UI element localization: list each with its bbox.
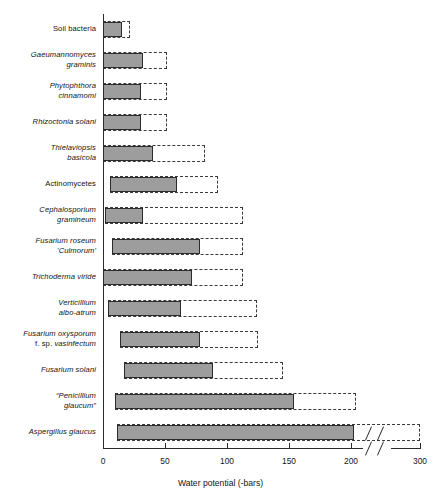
- bar-solid-range: [112, 239, 200, 254]
- category-label: Rhizoctonia solani: [0, 117, 96, 127]
- category-label: Actinomycetes: [0, 179, 96, 189]
- x-axis-line-after-break: [391, 448, 420, 449]
- x-axis-title: Water potential (-bars): [0, 478, 441, 488]
- x-axis-tick: [420, 443, 421, 449]
- bar-solid-range: [124, 363, 213, 378]
- bar-solid-range: [108, 301, 181, 316]
- category-label: Fusarium solani: [0, 365, 96, 375]
- x-axis-tick: [351, 443, 352, 449]
- category-label: Fusarium oxysporumf. sp. vasinfectum: [0, 329, 96, 349]
- x-axis-tick-label: 50: [160, 456, 169, 466]
- x-axis-tick-label: 300: [413, 456, 427, 466]
- x-axis-tick: [103, 443, 104, 449]
- x-axis-tick-label: 200: [344, 456, 358, 466]
- bar-solid-range: [105, 208, 142, 223]
- category-label: Cephalosporiumgramineum: [0, 205, 96, 225]
- y-axis-line: [103, 14, 104, 448]
- bar-solid-range: [117, 425, 355, 440]
- category-label: Soil bacteria: [0, 24, 96, 34]
- category-label: “Penicilliumglaucum”: [0, 391, 96, 411]
- x-axis-tick: [165, 443, 166, 449]
- category-label: Gaeumannomycesgraminis: [0, 50, 96, 70]
- category-label: Verticilliumalbo-atrum: [0, 298, 96, 318]
- bar-solid-range: [103, 22, 122, 37]
- x-axis-tick-label: 150: [282, 456, 296, 466]
- x-axis-tick: [289, 443, 290, 449]
- bar-solid-range: [103, 270, 192, 285]
- category-label: Aspergillus glaucus: [0, 427, 96, 437]
- x-axis-tick-label: 0: [101, 456, 106, 466]
- bar-solid-range: [103, 53, 143, 68]
- x-axis-tick: [227, 443, 228, 449]
- category-label: Trichoderma viride: [0, 272, 96, 282]
- bar-solid-range: [103, 146, 153, 161]
- bar-solid-range: [110, 177, 177, 192]
- bar-solid-range: [120, 332, 199, 347]
- x-axis-line: [103, 448, 363, 449]
- x-axis-tick-label: 100: [220, 456, 234, 466]
- bar-solid-range: [115, 394, 294, 409]
- category-label: Thielaviopsisbasicola: [0, 143, 96, 163]
- bar-solid-range: [103, 115, 141, 130]
- category-label: Phytophthoracinnamomi: [0, 81, 96, 101]
- chart-root: Water potential (-bars) Soil bacteriaGae…: [0, 0, 441, 498]
- category-label: Fusarium roseum'Culmorum': [0, 236, 96, 256]
- bar-solid-range: [103, 84, 141, 99]
